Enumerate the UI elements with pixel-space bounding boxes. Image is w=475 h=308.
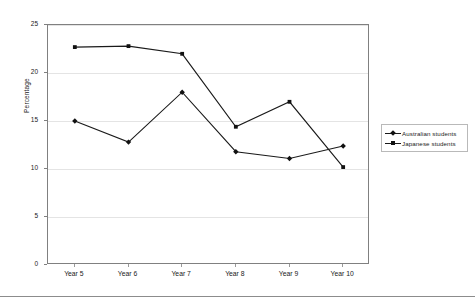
data-point bbox=[340, 143, 345, 148]
legend-item-australian-students[interactable]: Australian students bbox=[384, 128, 464, 138]
legend-marker-diamond-icon bbox=[384, 129, 402, 138]
footer-divider bbox=[0, 296, 475, 297]
y-tick-label-10: 10 bbox=[14, 164, 38, 171]
data-point bbox=[288, 100, 292, 104]
y-tick-mark-5 bbox=[44, 216, 47, 217]
x-tick-mark-3 bbox=[235, 264, 236, 267]
data-point bbox=[287, 156, 292, 161]
x-tick-label-1: Year 6 bbox=[98, 270, 158, 277]
y-tick-label-20: 20 bbox=[14, 68, 38, 75]
series-line-japanese-students bbox=[75, 46, 343, 167]
data-point bbox=[341, 165, 345, 169]
data-point bbox=[180, 52, 184, 56]
legend-label: Japanese students bbox=[402, 140, 456, 147]
legend-item-japanese-students[interactable]: Japanese students bbox=[384, 138, 464, 148]
x-tick-mark-2 bbox=[181, 264, 182, 267]
y-tick-mark-25 bbox=[44, 24, 47, 25]
y-axis-title: Percentage bbox=[23, 36, 30, 156]
plot-area bbox=[47, 24, 369, 264]
x-tick-mark-4 bbox=[289, 264, 290, 267]
y-tick-mark-20 bbox=[44, 72, 47, 73]
y-tick-mark-15 bbox=[44, 120, 47, 121]
series-group bbox=[48, 25, 370, 265]
y-tick-label-0: 0 bbox=[14, 260, 38, 267]
chart-legend: Australian students Japanese students bbox=[381, 124, 468, 152]
x-tick-label-4: Year 9 bbox=[259, 270, 319, 277]
chart-page: Percentage 0510152025 Year 5Year 6Year 7… bbox=[0, 0, 475, 308]
data-point bbox=[127, 44, 131, 48]
x-tick-mark-5 bbox=[342, 264, 343, 267]
y-tick-mark-0 bbox=[44, 264, 47, 265]
legend-marker-square-icon bbox=[384, 139, 402, 148]
series-line-australian-students bbox=[75, 92, 343, 158]
x-tick-label-0: Year 5 bbox=[44, 270, 104, 277]
y-tick-label-5: 5 bbox=[14, 212, 38, 219]
data-point bbox=[72, 118, 77, 123]
y-tick-label-15: 15 bbox=[14, 116, 38, 123]
x-tick-label-3: Year 8 bbox=[205, 270, 265, 277]
x-tick-label-2: Year 7 bbox=[151, 270, 211, 277]
data-point bbox=[73, 45, 77, 49]
x-tick-label-5: Year 10 bbox=[312, 270, 372, 277]
x-tick-mark-0 bbox=[74, 264, 75, 267]
series-markers-australian-students bbox=[72, 90, 346, 162]
y-tick-label-25: 25 bbox=[14, 20, 38, 27]
y-tick-mark-10 bbox=[44, 168, 47, 169]
legend-label: Australian students bbox=[402, 130, 457, 137]
data-point bbox=[234, 125, 238, 129]
series-markers-japanese-students bbox=[73, 44, 345, 169]
x-tick-mark-1 bbox=[128, 264, 129, 267]
